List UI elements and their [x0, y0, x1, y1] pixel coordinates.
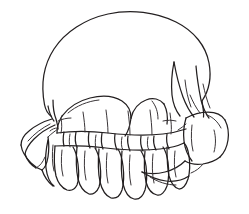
figure-root [0, 0, 249, 214]
canvas-background [0, 0, 249, 214]
skull-line-drawing [0, 0, 249, 214]
